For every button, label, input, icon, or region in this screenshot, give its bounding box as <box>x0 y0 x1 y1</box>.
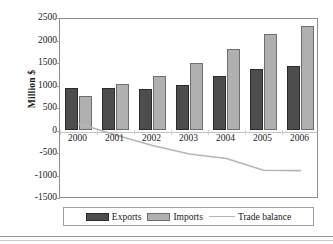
x-axis-tick-labels: 2000200120022003200420052006 <box>59 133 318 149</box>
legend-label-imports: Imports <box>173 212 203 222</box>
x-tick-label-2001: 2001 <box>97 133 133 143</box>
y-axis-tick-labels: 25002000150010005000-500-1000-1500 <box>19 0 57 244</box>
y-tick-mark <box>56 18 60 19</box>
bar-imports-2002 <box>153 76 167 130</box>
y-tick-label: 500 <box>23 103 57 113</box>
legend-label-trade-balance: Trade balance <box>238 212 291 222</box>
y-tick-mark <box>56 131 60 132</box>
x-tick-label-2000: 2000 <box>60 133 96 143</box>
legend-swatch-exports <box>86 213 109 221</box>
bar-imports-2000 <box>79 96 93 129</box>
x-tick-label-2004: 2004 <box>208 133 244 143</box>
bar-exports-2001 <box>102 88 116 130</box>
y-tick-mark <box>56 41 60 42</box>
y-tick-label: 1000 <box>23 81 57 91</box>
y-tick-label: 0 <box>23 126 57 136</box>
legend-item-trade-balance: Trade balance <box>209 212 291 222</box>
y-tick-mark <box>56 176 60 177</box>
bar-exports-2004 <box>213 76 227 130</box>
bar-imports-2005 <box>264 34 278 129</box>
bar-exports-2002 <box>139 89 153 129</box>
chart-legend: Exports Imports Trade balance <box>63 207 314 226</box>
y-tick-label: -1000 <box>23 171 57 181</box>
plot-area <box>59 18 318 198</box>
chart-figure: Million $ 25002000150010005000-500-1000-… <box>0 0 333 244</box>
y-tick-mark <box>56 198 60 199</box>
x-tick-label-2005: 2005 <box>245 133 281 143</box>
bar-exports-2005 <box>250 69 264 129</box>
legend-label-exports: Exports <box>112 212 142 222</box>
y-tick-mark <box>56 86 60 87</box>
bar-imports-2006 <box>301 26 315 130</box>
bar-imports-2004 <box>227 49 241 130</box>
y-tick-label: 1500 <box>23 58 57 68</box>
y-tick-mark <box>56 63 60 64</box>
legend-swatch-imports <box>147 213 170 221</box>
bar-exports-2003 <box>176 85 190 129</box>
bar-imports-2003 <box>190 63 204 130</box>
legend-item-exports: Exports <box>86 212 142 222</box>
x-tick-label-2006: 2006 <box>282 133 318 143</box>
page-rule-secondary <box>0 240 333 241</box>
x-tick-label-2002: 2002 <box>134 133 170 143</box>
y-tick-label: -1500 <box>23 193 57 203</box>
x-tick-label-2003: 2003 <box>171 133 207 143</box>
legend-item-imports: Imports <box>147 212 203 222</box>
bar-imports-2001 <box>116 84 130 129</box>
page-rule-primary <box>0 236 333 237</box>
bar-exports-2006 <box>287 66 301 129</box>
y-tick-label: -500 <box>23 148 57 158</box>
y-tick-mark <box>56 153 60 154</box>
y-tick-label: 2000 <box>23 36 57 46</box>
y-tick-mark <box>56 108 60 109</box>
legend-swatch-trade-balance <box>209 216 235 217</box>
y-tick-label: 2500 <box>23 13 57 23</box>
bar-exports-2000 <box>65 88 79 129</box>
